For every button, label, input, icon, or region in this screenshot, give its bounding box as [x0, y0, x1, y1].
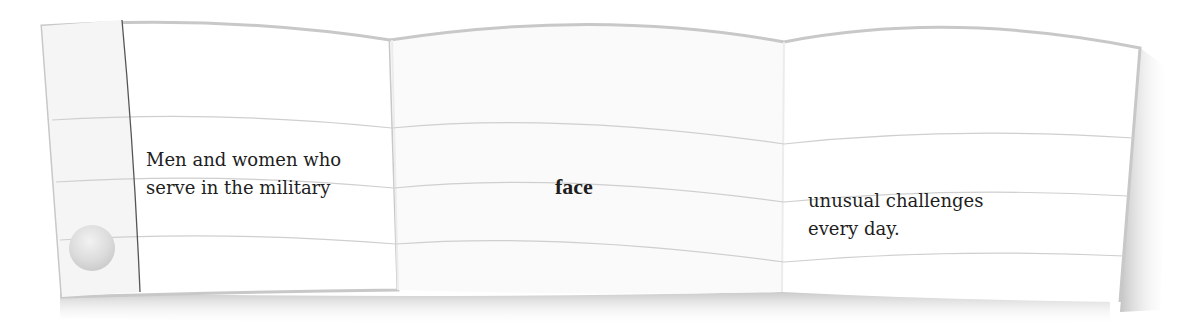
left-line-1: Men and women who: [146, 146, 341, 174]
panel-right-paper: [782, 27, 1140, 302]
panel-middle-text: face: [555, 173, 593, 201]
panel-left-text: Men and women who serve in the military: [146, 146, 341, 202]
panel-right-text: unusual challenges every day.: [808, 187, 983, 243]
right-line-1: unusual challenges: [808, 187, 983, 215]
left-line-2: serve in the military: [146, 174, 341, 202]
middle-word: face: [555, 173, 593, 201]
panel-middle-paper: [390, 24, 784, 293]
punched-hole-icon: [69, 225, 115, 271]
flipbook-sentence-strip: Men and women who serve in the military …: [0, 0, 1194, 334]
right-line-2: every day.: [808, 215, 983, 243]
